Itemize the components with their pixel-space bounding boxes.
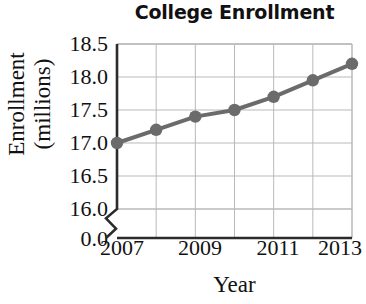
data-point-2013 <box>346 58 358 70</box>
data-point-2008 <box>150 124 162 136</box>
data-point-2007 <box>111 137 123 149</box>
data-point-2009 <box>189 110 201 122</box>
data-point-2011 <box>267 91 279 103</box>
data-point-2012 <box>307 74 319 86</box>
gridlines <box>117 44 352 238</box>
data-point-2010 <box>228 104 240 116</box>
